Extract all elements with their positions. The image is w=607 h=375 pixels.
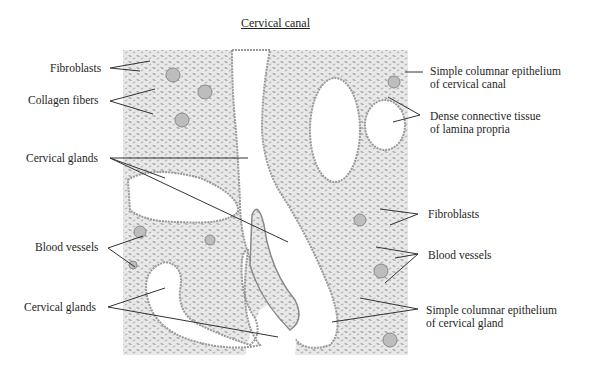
label-line: Dense connective tissue — [430, 110, 541, 123]
label-blood-vessels-left: Blood vessels — [35, 241, 99, 254]
label-collagen-fibers: Collagen fibers — [28, 94, 99, 107]
label-fibroblasts-right: Fibroblasts — [428, 208, 479, 221]
label-blood-vessels-right: Blood vessels — [428, 249, 492, 262]
label-cervical-glands-bottom: Cervical glands — [24, 301, 96, 314]
label-epithelium-canal: Simple columnar epithelium of cervical c… — [430, 65, 561, 91]
figure-title: Cervical canal — [241, 16, 310, 31]
label-cervical-glands-top: Cervical glands — [26, 152, 98, 165]
gland-lumen — [365, 100, 405, 150]
gland-lumen — [310, 78, 360, 182]
label-line: of cervical gland — [426, 317, 557, 330]
label-line: of lamina propria — [430, 123, 541, 136]
label-fibroblasts-left: Fibroblasts — [50, 62, 101, 75]
label-epithelium-gland: Simple columnar epithelium of cervical g… — [426, 304, 557, 330]
label-line: Simple columnar epithelium — [430, 65, 561, 78]
label-line: of cervical canal — [430, 78, 561, 91]
label-line: Simple columnar epithelium — [426, 304, 557, 317]
label-dense-connective-tissue: Dense connective tissue of lamina propri… — [430, 110, 541, 136]
